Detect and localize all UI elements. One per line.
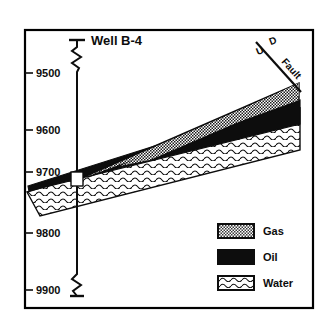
legend-label-gas: Gas	[263, 225, 284, 237]
depth-tick: 9900	[25, 284, 60, 296]
legend: Gas Oil Water	[218, 224, 294, 290]
legend-item-water: Water	[218, 276, 294, 290]
fault-downthrown-label: D	[267, 34, 278, 47]
legend-swatch-oil	[218, 250, 254, 264]
fault-upthrown-label: U	[254, 44, 265, 57]
cross-section-canvas: U D Fault 9500 9600 9700 9800 9900	[0, 0, 323, 335]
well-break-icon-bottom	[72, 268, 81, 296]
well-perforation-marker	[71, 172, 83, 186]
fault-label: Fault	[280, 56, 305, 82]
legend-item-oil: Oil	[218, 250, 278, 264]
legend-swatch-gas	[218, 224, 254, 238]
depth-tick: 9700	[25, 166, 60, 178]
depth-tick: 9800	[25, 227, 60, 239]
legend-swatch-water	[218, 276, 254, 290]
depth-tick: 9600	[25, 124, 60, 136]
well-label: Well B-4	[91, 33, 143, 48]
reservoir-body	[27, 83, 300, 216]
depth-tick-label: 9500	[36, 67, 60, 79]
cross-section-figure: U D Fault 9500 9600 9700 9800 9900	[0, 0, 323, 335]
wellbore-group	[69, 40, 85, 296]
depth-tick-label: 9700	[36, 166, 60, 178]
depth-tick: 9500	[25, 67, 60, 79]
depth-tick-label: 9800	[36, 227, 60, 239]
depth-tick-label: 9600	[36, 124, 60, 136]
legend-label-oil: Oil	[263, 251, 278, 263]
legend-label-water: Water	[263, 277, 294, 289]
depth-tick-label: 9900	[36, 284, 60, 296]
legend-item-gas: Gas	[218, 224, 284, 238]
well-break-icon-top	[72, 40, 81, 160]
